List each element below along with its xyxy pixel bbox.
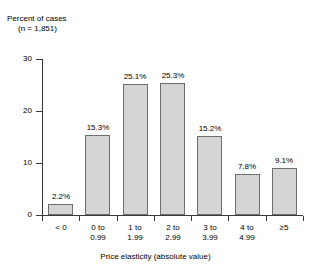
x-axis-title: Price elasticity (absolute value) [0, 252, 311, 262]
bar-value-label: 25.3% [153, 72, 193, 80]
bar-value-label: 15.2% [190, 125, 230, 133]
bar [123, 84, 148, 215]
bar [160, 83, 185, 215]
category-label-line: 4.99 [225, 233, 269, 243]
x-axis-tick [117, 216, 118, 221]
y-axis-tick [36, 59, 42, 60]
bar-value-label: 9.1% [264, 157, 304, 165]
x-axis-tick [228, 216, 229, 221]
bar [48, 204, 73, 215]
bar [272, 168, 297, 215]
y-axis-title-line1: Percent of cases [7, 14, 67, 23]
y-axis-tick-label: 10 [23, 159, 32, 167]
y-axis-tick [36, 163, 42, 164]
y-axis-sample-size: (n = 1,851) [7, 24, 67, 34]
x-axis-tick [191, 216, 192, 221]
bar-value-label: 15.3% [78, 124, 118, 132]
bar-value-label: 7.8% [227, 163, 267, 171]
x-axis-tick [266, 216, 267, 221]
x-axis-tick [42, 216, 43, 221]
y-axis-title: Percent of cases (n = 1,851) [7, 14, 67, 34]
bar [235, 174, 260, 215]
y-axis-tick-label: 20 [23, 107, 32, 115]
bar-value-label: 25.1% [115, 73, 155, 81]
bar [85, 135, 110, 215]
bar [197, 136, 222, 215]
x-axis-tick [154, 216, 155, 221]
x-axis-category-label: ≥5 [262, 223, 306, 233]
x-axis-tick [79, 216, 80, 221]
x-axis-tick [303, 216, 304, 221]
y-axis-tick [36, 111, 42, 112]
category-label-line: ≥5 [262, 223, 306, 233]
x-axis-line [36, 215, 303, 216]
bar-value-label: 2.2% [41, 193, 81, 201]
y-axis-tick-label: 0 [28, 211, 32, 219]
chart-figure: Percent of cases (n = 1,851) 0102030 2.2… [0, 0, 311, 273]
y-axis-tick-label: 30 [23, 55, 32, 63]
